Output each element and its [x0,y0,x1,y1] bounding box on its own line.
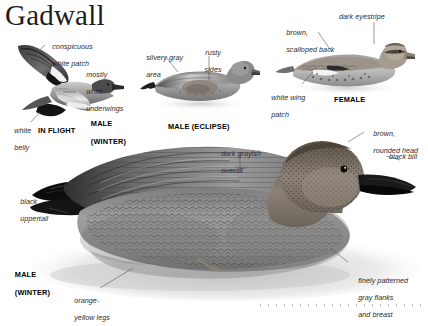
caption-female: FEMALE [334,95,365,104]
callout-white-wing-patch: white wing patch [263,85,305,128]
callout-white-belly: white belly [6,118,31,161]
callout-line: uppertail [20,214,48,223]
callout-line: rusty [205,48,221,57]
caption-line: (WINTER) [15,288,50,297]
callout-line: gray flanks [358,293,393,302]
callout-line: conspicuous [52,42,93,51]
callout-line: brown, [373,129,395,138]
callout-orange-yellow-legs: orange- yellow legs [66,288,110,326]
callout-line: brown, [286,28,308,37]
callout-line: silvery gray [146,53,183,62]
callout-line: sides [205,65,222,74]
callout-line: white [86,87,103,96]
callout-line: area [146,70,161,79]
callout-line: belly [14,143,29,152]
caption-line: MALE [91,119,113,128]
callout-line: dark grayish [221,149,261,158]
callout-line: mostly [86,70,107,79]
callout-line: orange- [74,296,99,305]
callout-dark-grayish-overall: dark grayish overall [213,141,261,184]
callout-silvery-gray-area: silvery gray area [138,45,183,88]
callout-black-uppertail: black uppertail [12,189,48,232]
callout-finely-patterned-gray-flanks: finely patterned gray flanks and breast [350,268,408,326]
callout-line: yellow legs [74,313,110,322]
caption-male-winter-flight: MALE (WINTER) [82,110,126,155]
callout-line: finely patterned [358,276,408,285]
caption-male-eclipse: MALE (ECLIPSE) [168,122,230,131]
callout-line: patch [271,110,289,119]
callout-rusty-sides: rusty sides [192,40,226,83]
callout-black-bill: black bill [389,153,417,162]
page-title: Gadwall [5,0,105,32]
callout-line: and breast [358,310,392,319]
caption-line: MALE [15,270,37,279]
callout-line: white wing [271,93,305,102]
callout-line: overall [221,166,243,175]
callout-dark-eyestripe: dark eyestripe [339,13,385,22]
callout-line: black [20,197,37,206]
callout-line: white [14,126,31,135]
callout-brown-scalloped-back: brown, scalloped back [278,20,334,63]
caption-male-winter-swimming: MALE (WINTER) [6,261,50,306]
callout-line: scalloped back [286,45,334,54]
caption-line: (WINTER) [91,137,126,146]
caption-in-flight: IN FLIGHT [38,126,75,135]
